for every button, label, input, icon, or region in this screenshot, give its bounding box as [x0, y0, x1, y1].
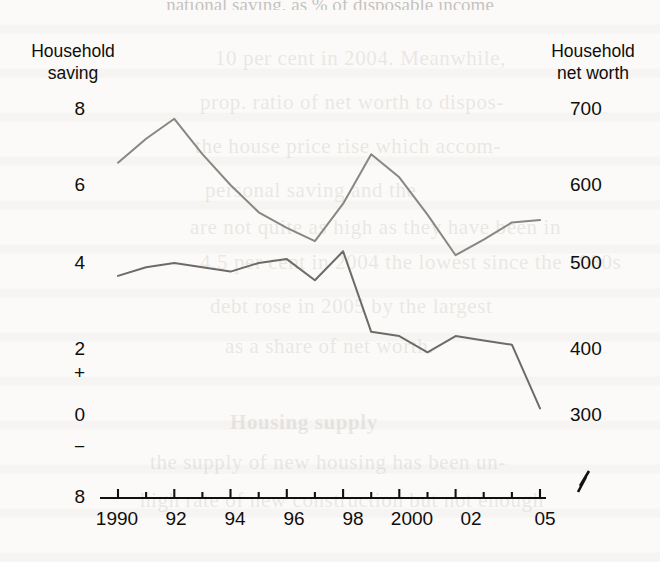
figure-page: 10 per cent in 2004. Meanwhile, prop. ra… [0, 0, 660, 562]
chart-canvas [0, 0, 660, 562]
series-line-household-net-worth [118, 119, 540, 255]
series-line-household-saving [118, 251, 540, 408]
x-axis-ticks [118, 489, 540, 498]
axis-break-icon [578, 471, 589, 492]
